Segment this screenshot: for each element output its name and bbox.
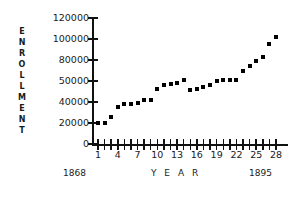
x-axis-tick [203,139,205,150]
x-axis-tick [130,139,132,150]
y-axis-tick [88,80,98,82]
y-axis-tick [88,17,98,19]
x-axis-tick-label: 10 [147,150,167,160]
data-point [149,98,153,102]
y-axis-title-letter: E [16,26,28,37]
data-point [215,79,219,83]
data-point [201,85,205,89]
y-axis-tick-label: 40000 [35,97,89,107]
data-point [162,83,166,87]
data-point [142,98,146,102]
data-point [254,59,258,63]
y-axis-title-letter: E [16,103,28,114]
y-axis-title-letter: N [16,37,28,48]
data-point [155,87,159,91]
x-axis-tick [124,139,126,150]
data-point [234,78,238,82]
data-point [109,115,113,119]
data-point [96,121,100,125]
data-point [208,83,212,87]
x-axis-end-year: 1895 [249,168,272,178]
data-point [221,78,225,82]
x-axis-tick-label: 22 [226,150,246,160]
data-point [182,78,186,82]
x-axis-tick-label: 1 [88,150,108,160]
data-point [274,35,278,39]
data-point [116,105,120,109]
x-axis-tick [242,139,244,150]
x-axis-tick-label: 4 [108,150,128,160]
y-axis-tick-labels: 120000100000800005000040000200000 [31,0,89,160]
data-point [175,81,179,85]
y-axis-title-letter: L [16,70,28,81]
x-axis-tick [143,139,145,150]
y-axis-title-letter: R [16,48,28,59]
x-axis-tick [262,139,264,150]
y-axis-title-letter: T [16,125,28,136]
plot-area [92,14,288,146]
chart-screenshot: E N R O L L M E N T 12000010000080000500… [0,0,297,197]
y-axis-tick-label: 120000 [35,13,89,23]
y-axis-tick-label: 100000 [35,34,89,44]
y-axis-tick-label: 0 [35,139,89,149]
x-axis-tick [163,139,165,150]
x-axis-tick [104,139,106,150]
x-axis-tick [110,139,112,150]
y-axis-tick-label: 20000 [35,118,89,128]
x-axis-tick-label: 28 [266,150,286,160]
y-axis-title: E N R O L L M E N T [16,26,28,136]
data-point [267,42,271,46]
x-axis-tick-label: 25 [246,150,266,160]
x-axis-tick-label: 7 [128,150,148,160]
data-point [129,102,133,106]
data-point [169,82,173,86]
y-axis-tick-label: 50000 [35,76,89,86]
y-axis-title-letter: M [16,92,28,103]
x-axis-start-year: 1868 [63,168,86,178]
y-axis-tick [88,101,98,103]
y-axis-title-letter: O [16,59,28,70]
y-axis-tick-label: 80000 [35,55,89,65]
x-axis-tick-labels: 14710131619222528 [92,150,292,164]
data-point [136,101,140,105]
data-point [228,78,232,82]
data-point [248,64,252,68]
x-axis-tick-label: 19 [207,150,227,160]
data-point [103,121,107,125]
data-point [241,69,245,73]
x-axis-tick [183,139,185,150]
data-point [195,87,199,91]
x-axis-tick-label: 16 [187,150,207,160]
x-axis-tick-label: 13 [167,150,187,160]
y-axis-title-letter: L [16,81,28,92]
y-axis-tick [88,59,98,61]
x-axis-title: Y E A R [151,168,201,178]
y-axis-tick [88,38,98,40]
data-point [122,102,126,106]
data-point [261,55,265,59]
y-axis-title-letter: N [16,114,28,125]
data-point [188,88,192,92]
x-axis-tick [223,139,225,150]
